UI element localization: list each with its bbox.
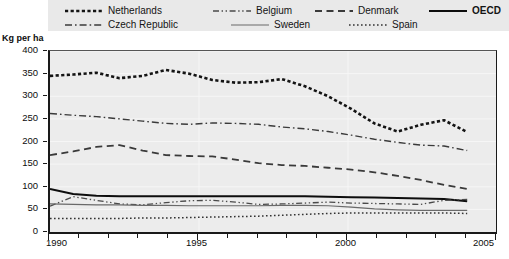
y-axis-tick-label: 100 — [8, 181, 38, 190]
series-line-netherlands — [50, 70, 467, 132]
y-axis-tick-label: 300 — [8, 90, 38, 99]
x-axis-tick — [108, 234, 109, 238]
y-axis-tick — [43, 118, 47, 119]
y-axis-tick — [43, 163, 47, 164]
x-axis-tick-label: 1990 — [46, 238, 67, 248]
legend-label-belgium: Belgium — [256, 4, 292, 18]
series-line-oecd — [50, 189, 467, 201]
legend-line-swatch-spain — [348, 18, 388, 32]
y-axis-tick-label: 400 — [8, 45, 38, 54]
legend-line-swatch-oecd — [428, 4, 468, 18]
legend-line-swatch-denmark — [314, 4, 354, 18]
y-axis-tick — [43, 95, 47, 96]
legend-label-spain: Spain — [392, 18, 418, 32]
legend-label-sweden: Sweden — [274, 18, 310, 32]
x-axis-tick-label: 2005 — [473, 238, 494, 248]
x-axis-tick — [78, 234, 79, 238]
x-axis-tick — [286, 234, 287, 238]
x-axis-tick-label: 1995 — [186, 238, 207, 248]
y-axis-tick — [43, 50, 47, 51]
legend-label-netherlands: Netherlands — [108, 4, 162, 18]
series-line-denmark — [50, 145, 467, 189]
y-axis-tick — [43, 186, 47, 187]
y-axis-tick-label: 0 — [8, 226, 38, 235]
x-axis-tick — [227, 234, 228, 238]
legend-line-swatch-czech-republic — [64, 18, 104, 32]
legend-row-2: Czech RepublicSwedenSpain — [48, 18, 509, 32]
x-axis-tick — [316, 234, 317, 238]
x-axis-tick — [167, 234, 168, 238]
y-axis-tick — [43, 231, 47, 232]
y-axis-tick — [43, 73, 47, 74]
legend-label-czech-republic: Czech Republic — [108, 18, 178, 32]
legend-line-swatch-netherlands — [64, 4, 104, 18]
legend-line-swatch-belgium — [212, 4, 252, 18]
x-axis-tick — [435, 234, 436, 238]
x-axis-tick — [495, 234, 496, 240]
x-axis-tick-label: 2000 — [335, 238, 356, 248]
x-axis-line — [48, 233, 497, 234]
x-axis-tick — [406, 234, 407, 238]
chart-figure: NetherlandsBelgiumDenmarkOECD Czech Repu… — [0, 0, 509, 259]
legend-row-1: NetherlandsBelgiumDenmarkOECD — [48, 4, 509, 18]
x-axis-tick — [137, 234, 138, 238]
x-axis-tick — [376, 234, 377, 238]
chart-legend: NetherlandsBelgiumDenmarkOECD Czech Repu… — [48, 0, 509, 31]
plot-area — [48, 50, 497, 233]
x-axis-tick — [257, 234, 258, 238]
legend-label-denmark: Denmark — [358, 4, 399, 18]
y-axis-tick-label: 200 — [8, 136, 38, 145]
legend-label-oecd: OECD — [472, 4, 501, 18]
y-axis-tick-label: 250 — [8, 113, 38, 122]
series-line-spain — [50, 213, 467, 218]
y-axis-tick — [43, 208, 47, 209]
y-axis-title: Kg per ha — [2, 33, 44, 43]
x-axis-tick — [465, 234, 466, 238]
y-axis-tick-label: 50 — [8, 203, 38, 212]
legend-line-swatch-sweden — [230, 18, 270, 32]
y-axis-tick-label: 150 — [8, 158, 38, 167]
y-axis-tick — [43, 141, 47, 142]
y-axis-tick-label: 350 — [8, 68, 38, 77]
